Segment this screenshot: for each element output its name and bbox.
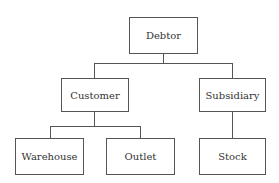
node-stock-label: Stock [218,151,247,162]
node-outlet: Outlet [106,138,175,175]
connector-to-warehouse [50,126,51,138]
node-outlet-label: Outlet [125,151,157,162]
node-debtor-label: Debtor [146,30,181,41]
connector-to-customer [94,63,95,78]
node-warehouse: Warehouse [15,138,84,175]
node-subsidiary: Subsidiary [199,78,266,112]
node-customer-label: Customer [70,90,119,101]
node-warehouse-label: Warehouse [21,151,77,162]
connector-customer-down [94,112,95,127]
connector-subsidiary-to-stock [232,112,233,138]
connector-to-subsidiary [232,63,233,78]
node-subsidiary-label: Subsidiary [205,90,259,101]
node-stock: Stock [199,138,266,175]
node-debtor: Debtor [129,17,198,54]
connector-to-outlet [140,126,141,138]
connector-level2-horizontal [50,126,141,127]
hierarchy-diagram: Debtor Customer Subsidiary Warehouse Out… [0,0,279,183]
connector-level1-horizontal [94,63,233,64]
node-customer: Customer [61,78,129,112]
